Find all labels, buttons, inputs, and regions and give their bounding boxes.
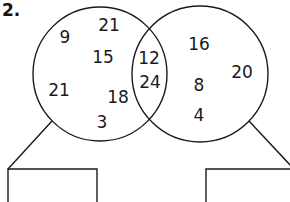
- left-number: 15: [92, 47, 114, 67]
- intersection-number: 12: [138, 48, 160, 68]
- right-number: 16: [188, 34, 210, 54]
- right-number: 8: [194, 75, 205, 95]
- intersection-number: 24: [139, 72, 161, 92]
- left-number: 3: [97, 112, 108, 132]
- right-connector-line: [249, 121, 290, 167]
- left-connector-line: [8, 121, 52, 169]
- right-answer-box[interactable]: [206, 169, 290, 202]
- left-number: 9: [60, 27, 71, 47]
- venn-diagram: 9 21 15 21 18 3 12 24 16 20 8 4: [0, 0, 290, 202]
- question-number: 2.: [2, 0, 20, 20]
- left-number: 21: [98, 15, 120, 35]
- left-number: 21: [48, 80, 70, 100]
- right-number: 4: [194, 105, 205, 125]
- right-number: 20: [231, 62, 253, 82]
- left-answer-box[interactable]: [8, 169, 97, 202]
- left-number: 18: [107, 87, 129, 107]
- venn-diagram-question: 2. 9 21 15 21 18 3 12 24 16 20 8 4: [0, 0, 290, 202]
